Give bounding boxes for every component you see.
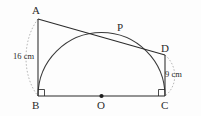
measurement-label-dc: 9 cm <box>165 70 182 79</box>
measurement-label-ab: 16 cm <box>13 52 34 61</box>
semicircle-arc <box>38 33 165 97</box>
geometry-figure: A B C D O P 16 cm 9 cm <box>0 0 201 116</box>
right-angle-marker-b <box>38 90 45 97</box>
vertex-label-d: D <box>161 43 169 54</box>
vertex-label-a: A <box>32 5 40 16</box>
vertex-label-c: C <box>161 100 168 111</box>
right-angle-marker-c <box>159 90 166 97</box>
vertex-label-b: B <box>32 100 39 111</box>
vertex-label-o: O <box>97 100 105 111</box>
segment-ad <box>38 19 165 55</box>
center-point-o <box>99 94 103 98</box>
vertex-label-p: P <box>117 22 123 33</box>
